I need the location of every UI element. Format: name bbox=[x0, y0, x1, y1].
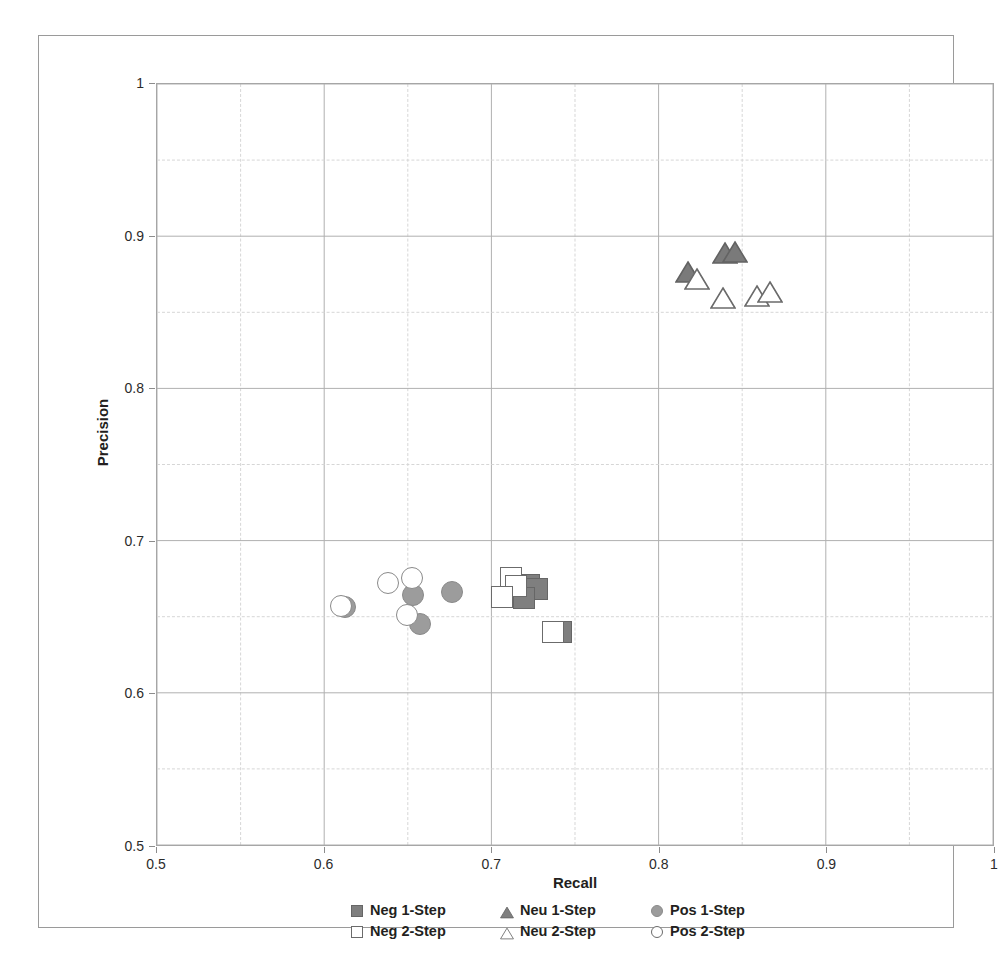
legend-label: Pos 1-Step bbox=[670, 902, 745, 918]
legend-row: Neg 2-StepNeu 2-StepPos 2-Step bbox=[350, 923, 800, 939]
x-tick-label: 0.6 bbox=[314, 856, 333, 872]
y-tick-mark bbox=[149, 236, 155, 237]
square-filled-icon bbox=[350, 903, 365, 918]
legend-item-neg-1-step[interactable]: Neg 1-Step bbox=[350, 902, 500, 918]
data-point bbox=[441, 581, 463, 603]
x-tick-mark bbox=[659, 847, 660, 853]
data-point bbox=[722, 240, 748, 263]
x-tick-mark bbox=[324, 847, 325, 853]
y-tick-label: 0.5 bbox=[94, 838, 144, 854]
legend-label: Pos 2-Step bbox=[670, 923, 745, 939]
y-tick-label: 0.9 bbox=[94, 228, 144, 244]
x-tick-label: 1 bbox=[990, 856, 998, 872]
x-tick-mark bbox=[994, 847, 995, 853]
legend-row: Neg 1-StepNeu 1-StepPos 1-Step bbox=[350, 902, 800, 918]
x-tick-mark bbox=[491, 847, 492, 853]
data-point bbox=[757, 280, 783, 303]
square-hollow-icon bbox=[350, 924, 365, 939]
y-tick-mark bbox=[149, 846, 155, 847]
y-axis-title: Precision bbox=[94, 363, 111, 503]
legend-item-pos-2-step[interactable]: Pos 2-Step bbox=[650, 923, 800, 939]
y-tick-mark bbox=[149, 388, 155, 389]
y-tick-label: 1 bbox=[94, 75, 144, 91]
y-tick-label: 0.6 bbox=[94, 685, 144, 701]
y-tick-mark bbox=[149, 541, 155, 542]
x-tick-label: 0.7 bbox=[481, 856, 500, 872]
y-tick-mark bbox=[149, 83, 155, 84]
data-point bbox=[491, 586, 513, 608]
legend-label: Neg 2-Step bbox=[370, 923, 446, 939]
x-axis-title: Recall bbox=[156, 874, 994, 891]
data-point bbox=[684, 268, 710, 291]
x-tick-mark bbox=[156, 847, 157, 853]
x-tick-label: 0.9 bbox=[817, 856, 836, 872]
x-tick-mark bbox=[826, 847, 827, 853]
legend-item-pos-1-step[interactable]: Pos 1-Step bbox=[650, 902, 800, 918]
legend-label: Neu 2-Step bbox=[520, 923, 596, 939]
data-point bbox=[377, 572, 399, 594]
circle-hollow-icon bbox=[650, 924, 665, 939]
data-point bbox=[542, 621, 564, 643]
data-point bbox=[401, 567, 423, 589]
x-tick-label: 0.5 bbox=[146, 856, 165, 872]
legend-item-neu-1-step[interactable]: Neu 1-Step bbox=[500, 902, 650, 918]
data-point bbox=[710, 286, 736, 309]
triangle-hollow-icon bbox=[500, 924, 515, 939]
plot-area bbox=[156, 83, 994, 846]
y-tick-mark bbox=[149, 693, 155, 694]
data-point bbox=[330, 595, 352, 617]
chart-legend: Neg 1-StepNeu 1-StepPos 1-StepNeg 2-Step… bbox=[156, 902, 994, 939]
legend-item-neu-2-step[interactable]: Neu 2-Step bbox=[500, 923, 650, 939]
data-points-layer bbox=[157, 84, 993, 845]
legend-item-neg-2-step[interactable]: Neg 2-Step bbox=[350, 923, 500, 939]
chart-frame: 0.50.60.70.80.91 0.50.60.70.80.91 Recall… bbox=[38, 35, 954, 928]
circle-filled-icon bbox=[650, 903, 665, 918]
x-tick-label: 0.8 bbox=[649, 856, 668, 872]
legend-label: Neg 1-Step bbox=[370, 902, 446, 918]
legend-label: Neu 1-Step bbox=[520, 902, 596, 918]
triangle-filled-icon bbox=[500, 903, 515, 918]
data-point bbox=[396, 604, 418, 626]
y-tick-label: 0.7 bbox=[94, 533, 144, 549]
